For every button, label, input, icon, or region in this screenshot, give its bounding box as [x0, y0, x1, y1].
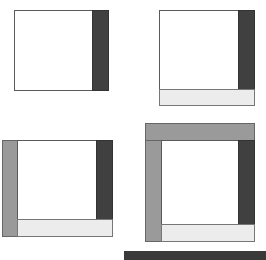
left-panel: [2, 140, 18, 237]
content-area: [14, 10, 93, 91]
top-panel: [145, 123, 255, 141]
layout-step-2: [159, 10, 255, 106]
right-panel: [238, 10, 255, 90]
layout-step-1: [14, 10, 109, 91]
right-panel: [92, 10, 109, 91]
bottom-panel: [161, 224, 255, 242]
content-area: [17, 140, 97, 220]
left-panel: [145, 140, 162, 242]
right-panel: [238, 140, 255, 225]
bottom-panel: [17, 219, 113, 237]
content-area: [161, 140, 239, 225]
content-area: [159, 10, 239, 90]
bottom-bar: [124, 251, 266, 260]
bottom-panel: [159, 89, 255, 106]
right-panel: [96, 140, 113, 220]
layout-step-3: [2, 140, 113, 237]
layout-step-4: [145, 123, 255, 242]
